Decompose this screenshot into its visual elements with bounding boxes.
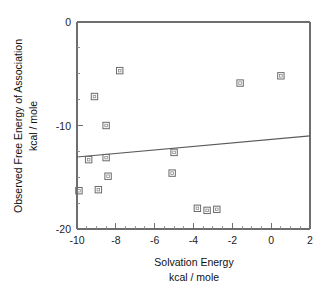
plot-background	[0, 0, 334, 294]
x-tick-label: -10	[69, 234, 84, 246]
y-axis-title-line1: Observed Free Energy of Association	[12, 39, 24, 213]
scatter-plot-figure: -10-8-6-4-202 0-10-20 Solvation Energy k…	[0, 0, 334, 294]
x-tick-label: -8	[111, 234, 120, 246]
x-tick-label: 2	[307, 234, 313, 246]
y-tick-label: -10	[56, 120, 71, 132]
x-tick-label: 0	[268, 234, 274, 246]
x-axis-title-line2: kcal / mole	[169, 271, 219, 283]
x-tick-label: -4	[189, 234, 198, 246]
x-tick-label: -2	[228, 234, 237, 246]
y-axis-title-line2: kcal / mole	[27, 101, 39, 151]
x-axis-title-line1: Solvation Energy	[154, 256, 234, 268]
x-tick-label: -6	[150, 234, 159, 246]
y-tick-label: -20	[56, 223, 71, 235]
y-tick-label: 0	[65, 16, 71, 28]
